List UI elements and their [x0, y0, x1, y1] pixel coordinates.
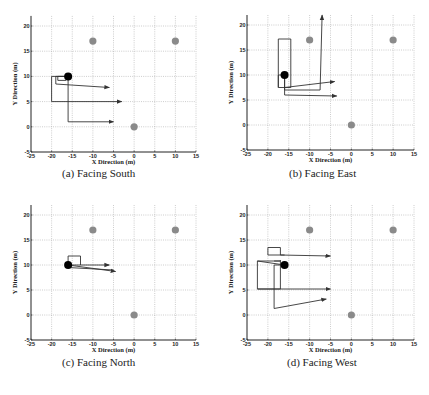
- caption-c: (c) Facing North: [62, 356, 135, 368]
- svg-text:-20: -20: [264, 151, 272, 157]
- svg-text:-20: -20: [264, 341, 272, 347]
- svg-text:X Direction (m): X Direction (m): [309, 156, 353, 164]
- svg-text:10: 10: [390, 341, 396, 347]
- subplot-c: -25-20-15-10-5051015-505101520X Directio…: [11, 205, 199, 354]
- svg-text:X Direction (m): X Direction (m): [92, 346, 136, 354]
- subplot-a: -25-20-15-10-5051015-505101520X Directio…: [11, 16, 199, 166]
- svg-text:-5: -5: [241, 147, 246, 153]
- svg-text:-20: -20: [48, 341, 56, 347]
- svg-text:-20: -20: [48, 153, 56, 159]
- svg-text:15: 15: [239, 237, 245, 243]
- svg-text:10: 10: [23, 73, 29, 79]
- svg-text:-5: -5: [25, 149, 30, 155]
- svg-text:5: 5: [26, 99, 29, 105]
- svg-text:10: 10: [390, 151, 396, 157]
- svg-text:5: 5: [371, 341, 374, 347]
- svg-text:20: 20: [23, 212, 29, 218]
- svg-text:Y Direction (m): Y Direction (m): [11, 251, 19, 294]
- svg-text:5: 5: [242, 287, 245, 293]
- svg-text:5: 5: [153, 341, 156, 347]
- svg-text:10: 10: [172, 153, 178, 159]
- svg-text:10: 10: [239, 262, 245, 268]
- svg-text:0: 0: [242, 122, 245, 128]
- svg-text:X Direction (m): X Direction (m): [92, 158, 136, 166]
- svg-text:20: 20: [239, 212, 245, 218]
- svg-text:-5: -5: [241, 337, 246, 343]
- svg-text:15: 15: [239, 47, 245, 53]
- svg-text:X Direction (m): X Direction (m): [309, 346, 353, 354]
- caption-b: (b) Facing East: [289, 167, 356, 179]
- svg-text:-5: -5: [25, 337, 30, 343]
- subplot-b: -25-20-15-10-5051015-505101520X Directio…: [227, 15, 417, 164]
- svg-text:5: 5: [242, 97, 245, 103]
- svg-text:10: 10: [23, 262, 29, 268]
- svg-text:10: 10: [239, 72, 245, 78]
- svg-text:15: 15: [193, 341, 199, 347]
- figure-canvas: -25-20-15-10-5051015-505101520X Directio…: [0, 0, 429, 395]
- svg-text:15: 15: [411, 151, 417, 157]
- svg-text:Y Direction (m): Y Direction (m): [11, 62, 19, 105]
- svg-text:15: 15: [23, 237, 29, 243]
- svg-text:0: 0: [26, 312, 29, 318]
- svg-text:5: 5: [26, 287, 29, 293]
- svg-text:Y Direction (m): Y Direction (m): [227, 251, 235, 294]
- svg-text:10: 10: [172, 341, 178, 347]
- svg-text:5: 5: [371, 151, 374, 157]
- caption-a: (a) Facing South: [62, 167, 135, 179]
- svg-text:15: 15: [23, 48, 29, 54]
- svg-text:-15: -15: [68, 153, 76, 159]
- svg-text:15: 15: [411, 341, 417, 347]
- svg-text:5: 5: [153, 153, 156, 159]
- caption-d: (d) Facing West: [287, 356, 357, 368]
- svg-text:Y Direction (m): Y Direction (m): [227, 61, 235, 104]
- svg-text:-15: -15: [68, 341, 76, 347]
- svg-text:0: 0: [242, 312, 245, 318]
- svg-text:-15: -15: [285, 341, 293, 347]
- svg-text:0: 0: [26, 124, 29, 130]
- svg-text:-15: -15: [285, 151, 293, 157]
- svg-text:20: 20: [23, 23, 29, 29]
- subplot-d: -25-20-15-10-5051015-505101520X Directio…: [227, 205, 417, 354]
- svg-text:20: 20: [239, 22, 245, 28]
- svg-text:15: 15: [193, 153, 199, 159]
